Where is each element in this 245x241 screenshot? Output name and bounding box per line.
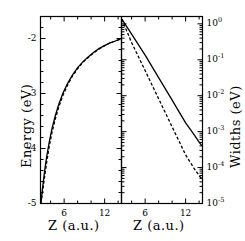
- right-panel-frame: [122, 17, 203, 204]
- right-y-tick-label: 10-1: [207, 54, 237, 64]
- left-panel-frame: [41, 17, 122, 204]
- curve-widths-solid: [122, 19, 202, 146]
- right-x-tick-label: 12: [175, 208, 197, 218]
- left-x-tick-label: 6: [53, 208, 75, 218]
- right-y-tick-label: 10-3: [207, 126, 237, 136]
- left-y-tick-label: -5: [15, 198, 37, 208]
- right-y-tick-label: 10-4: [207, 162, 237, 172]
- left-y-tick-label: -4: [15, 143, 37, 153]
- left-y-tick-label: -2: [15, 33, 37, 43]
- right-x-tick-label: 6: [134, 208, 156, 218]
- left-x-axis-title: Z (a.u.): [48, 218, 100, 233]
- curve-energy-solid: [41, 39, 121, 204]
- figure: Energy (eV) Widths (eV) Z (a.u.) Z (a.u.…: [0, 0, 245, 241]
- right-y-tick-label: 10-5: [207, 198, 237, 208]
- curve-widths-dashed: [122, 19, 202, 179]
- left-x-tick-label: 12: [94, 208, 116, 218]
- right-y-tick-label: 10-2: [207, 90, 237, 100]
- right-x-axis-title: Z (a.u.): [133, 218, 185, 233]
- right-y-tick-label: 100: [207, 18, 237, 28]
- left-y-tick-label: -3: [15, 88, 37, 98]
